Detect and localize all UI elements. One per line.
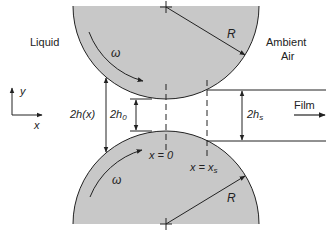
top-radius-label: R bbox=[227, 28, 236, 40]
air-label: Air bbox=[281, 51, 294, 62]
film-label: Film bbox=[294, 100, 315, 111]
film-gap-label: 2hs bbox=[247, 109, 263, 122]
min-gap-label: 2h0 bbox=[110, 109, 127, 122]
roller-diagram bbox=[0, 0, 330, 231]
separation-label: x = xs bbox=[190, 162, 218, 175]
center-line-label: x = 0 bbox=[149, 150, 173, 161]
liquid-label: Liquid bbox=[30, 37, 59, 48]
bottom-omega-label: ω bbox=[112, 174, 121, 186]
x-axis-label: x bbox=[34, 120, 40, 131]
top-omega-label: ω bbox=[111, 47, 120, 59]
bottom-radius-label: R bbox=[227, 192, 236, 204]
y-axis-label: y bbox=[20, 86, 26, 97]
ambient-label: Ambient bbox=[266, 37, 306, 48]
gap-label: 2h(x) bbox=[70, 109, 95, 120]
